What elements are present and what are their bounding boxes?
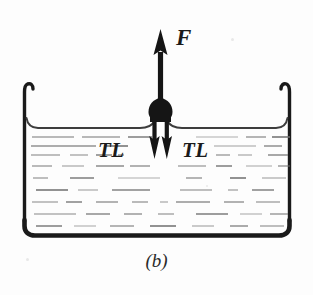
beaker-bottom bbox=[25, 220, 290, 236]
figure-caption: (b) bbox=[0, 250, 313, 272]
wire-frame-apparatus bbox=[149, 29, 173, 159]
liquid-surface-left bbox=[27, 118, 155, 128]
liquid-hatching bbox=[31, 137, 290, 226]
beaker-right-wall bbox=[281, 84, 290, 222]
tension-label-right: TL bbox=[182, 140, 209, 161]
figure-container: F TL TL (b) bbox=[0, 0, 313, 295]
force-arrow-head bbox=[154, 29, 168, 55]
liquid-surface-right bbox=[168, 118, 288, 128]
beaker-left-wall bbox=[25, 84, 34, 222]
force-label-F: F bbox=[176, 26, 191, 49]
tension-label-left: TL bbox=[98, 140, 125, 161]
